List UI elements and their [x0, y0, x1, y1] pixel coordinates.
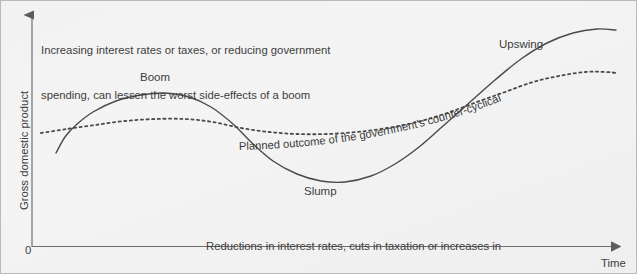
caption-top: Increasing interest rates or taxes, or r…: [41, 13, 381, 132]
caption-bottom: Reductions in interest rates, cuts in ta…: [206, 209, 506, 274]
caption-bottom-line-1: Reductions in interest rates, cuts in ta…: [206, 239, 506, 254]
y-axis-label: Gross domestic product: [17, 70, 32, 230]
label-boom: Boom: [140, 70, 170, 85]
label-slump: Slump: [304, 184, 337, 199]
label-upswing: Upswing: [499, 37, 543, 52]
business-cycle-figure: Planned outcome of the government's coun…: [0, 0, 637, 274]
origin-label: 0: [25, 243, 31, 258]
x-axis-label: Time: [601, 256, 626, 271]
caption-top-line-1: Increasing interest rates or taxes, or r…: [41, 43, 381, 58]
caption-top-line-2: spending, can lessen the worst side-effe…: [41, 88, 381, 103]
